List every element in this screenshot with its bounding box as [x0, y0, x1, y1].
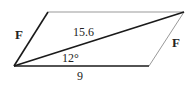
parallelogram-diagram: F F 15.6 12° 9 — [0, 0, 191, 86]
angle-label: 12° — [62, 51, 79, 65]
base-label: 9 — [77, 69, 83, 83]
right-side-label: F — [172, 35, 180, 50]
diagonal-resultant — [14, 12, 184, 66]
left-side-label: F — [15, 27, 23, 42]
diagonal-label: 15.6 — [73, 25, 94, 39]
